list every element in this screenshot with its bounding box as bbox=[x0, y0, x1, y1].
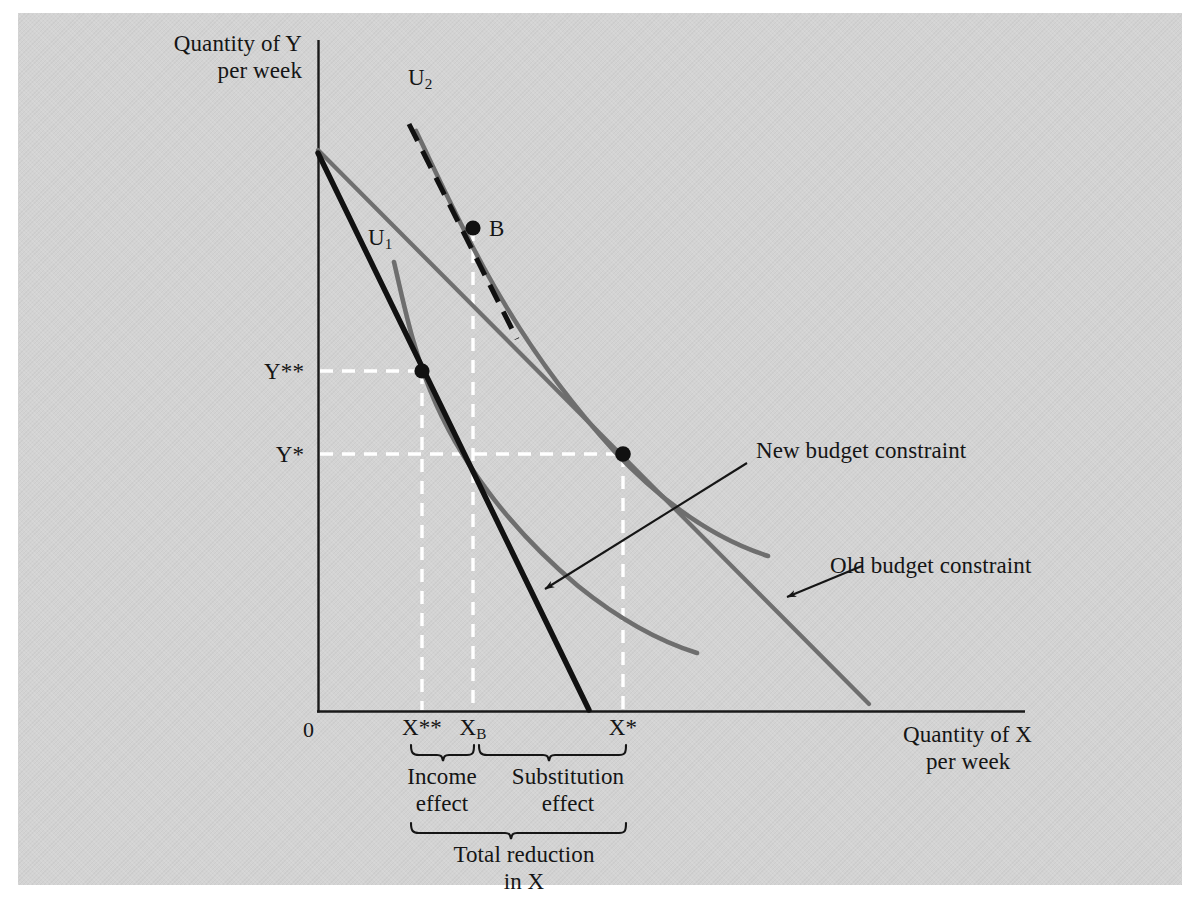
x-tick-label-xss: X** bbox=[392, 714, 452, 741]
y-axis-title-line1: Quantity of Y bbox=[174, 31, 302, 56]
x-axis-title-line2: per week bbox=[926, 749, 1010, 774]
brace-label-total-reduction-line2: in X bbox=[504, 869, 545, 894]
brace-label-income-effect-line2: effect bbox=[416, 791, 469, 816]
y-axis-title: Quantity of Yper week bbox=[130, 30, 302, 84]
annotation-leaders bbox=[545, 463, 862, 597]
annotation-new-budget-constraint: New budget constraint bbox=[756, 437, 966, 464]
point-c-new-optimum bbox=[414, 363, 429, 378]
brace-label-income-effect-line1: Income bbox=[407, 764, 477, 789]
y-tick-label-ys: Y* bbox=[236, 441, 304, 468]
brace-total-reduction bbox=[411, 823, 626, 839]
point-b-compensated bbox=[465, 220, 480, 235]
brace-label-total-reduction-line1: Total reduction bbox=[453, 842, 594, 867]
brace-substitution-effect bbox=[479, 745, 626, 761]
x-tick-label-xb-sub: B bbox=[476, 725, 486, 742]
x-tick-label-xb-base: X bbox=[460, 715, 477, 740]
brace-label-substitution-effect: Substitutioneffect bbox=[490, 763, 646, 817]
figure-page: Quantity of Yper week Quantity of Xper w… bbox=[0, 0, 1198, 909]
y-axis-title-line2: per week bbox=[218, 58, 302, 83]
point-label-b: B bbox=[489, 215, 504, 242]
curve-label-u2: U2 bbox=[408, 64, 432, 93]
brace-label-total-reduction: Total reductionin X bbox=[423, 841, 625, 895]
curve-label-u2-base: U bbox=[408, 65, 425, 90]
brace-label-substitution-effect-line1: Substitution bbox=[512, 764, 624, 789]
curve-label-u1-base: U bbox=[368, 225, 385, 250]
curve-label-u2-sub: 2 bbox=[425, 75, 433, 92]
indifference-curve-u2 bbox=[416, 131, 768, 556]
x-tick-label-xs: X* bbox=[595, 714, 651, 741]
x-axis-title-line1: Quantity of X bbox=[903, 722, 1032, 747]
x-tick-label-xb: XB bbox=[447, 714, 499, 743]
brace-label-substitution-effect-line2: effect bbox=[542, 791, 595, 816]
new-budget-constraint-line bbox=[318, 153, 589, 710]
brace-income-effect bbox=[411, 745, 474, 761]
curve-label-u1-sub: 1 bbox=[385, 235, 393, 252]
y-tick-label-yss: Y** bbox=[236, 358, 304, 385]
x-axis-title: Quantity of Xper week bbox=[903, 721, 1123, 775]
annotation-old-budget-constraint: Old budget constraint bbox=[830, 552, 1031, 579]
indifference-curve-u1 bbox=[394, 262, 697, 653]
point-a-old-optimum bbox=[615, 446, 631, 462]
origin-label: 0 bbox=[303, 717, 314, 743]
brace-label-income-effect: Incomeeffect bbox=[383, 763, 501, 817]
curve-label-u1: U1 bbox=[368, 224, 392, 253]
